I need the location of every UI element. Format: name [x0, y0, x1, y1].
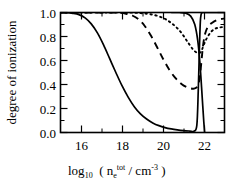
x-axis-log-base: 10 — [85, 171, 93, 180]
y-tick-label: 0.8 — [40, 30, 56, 45]
x-tick-label: 16 — [75, 138, 89, 153]
y-right-ticks — [218, 13, 225, 133]
x-axis-log: log — [68, 163, 85, 178]
y-tick-label: 1.0 — [40, 6, 56, 21]
x-axis-unit: cm — [135, 163, 151, 178]
ionization-degree-plot: 1.0 0.8 0.6 0.4 0.2 0.0 16 18 20 22 degr… — [0, 0, 237, 185]
y-tick-label: 0.6 — [40, 54, 57, 69]
y-tick-label: 0.2 — [40, 102, 56, 117]
chart-figure: 1.0 0.8 0.6 0.4 0.2 0.0 16 18 20 22 degr… — [0, 0, 237, 185]
x-tick-label: 22 — [198, 138, 211, 153]
data-curves — [61, 12, 225, 132]
svg-text:log10 ( netot / cm-3 ): log10 ( netot / cm-3 ) — [68, 163, 166, 180]
x-axis-variable-sub: e — [113, 171, 117, 180]
x-tick-label: 18 — [116, 138, 129, 153]
y-tick-label: 0.4 — [40, 78, 57, 93]
y-tick-labels: 1.0 0.8 0.6 0.4 0.2 0.0 — [40, 6, 57, 141]
x-axis-label: log10 ( netot / cm-3 ) — [68, 163, 166, 180]
x-axis-unit-exponent: -3 — [151, 163, 158, 172]
y-tick-label: 0.0 — [40, 126, 56, 141]
x-axis-close-paren: ) — [161, 163, 165, 178]
y-axis-label: degree of ionization — [4, 20, 19, 124]
x-tick-labels: 16 18 20 22 — [75, 138, 211, 153]
x-tick-label: 20 — [157, 138, 170, 153]
